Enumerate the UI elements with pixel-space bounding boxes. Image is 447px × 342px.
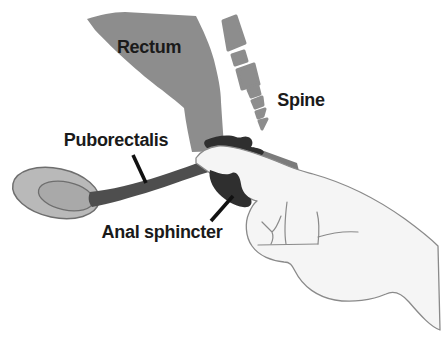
- spine-vertebrae: [223, 16, 267, 129]
- spine-label: Spine: [277, 90, 325, 110]
- spine-vertebra-3: [237, 64, 259, 89]
- spine-vertebra-5: [252, 97, 263, 108]
- anatomy-figure: Rectum Spine Puborectalis Anal sphincter: [0, 0, 447, 342]
- anatomy-diagram: Rectum Spine Puborectalis Anal sphincter: [0, 0, 447, 342]
- anal-sphincter-label: Anal sphincter: [102, 222, 223, 242]
- spine-vertebra-1: [223, 16, 245, 50]
- puborectalis-label: Puborectalis: [64, 130, 169, 150]
- spine-vertebra-2: [232, 51, 247, 65]
- anal-sphincter-leader-line: [211, 196, 233, 221]
- spine-vertebra-6: [256, 109, 265, 118]
- rectum-label: Rectum: [117, 37, 181, 57]
- puborectalis-leader-line: [133, 155, 146, 183]
- spine-vertebra-7: [259, 119, 267, 129]
